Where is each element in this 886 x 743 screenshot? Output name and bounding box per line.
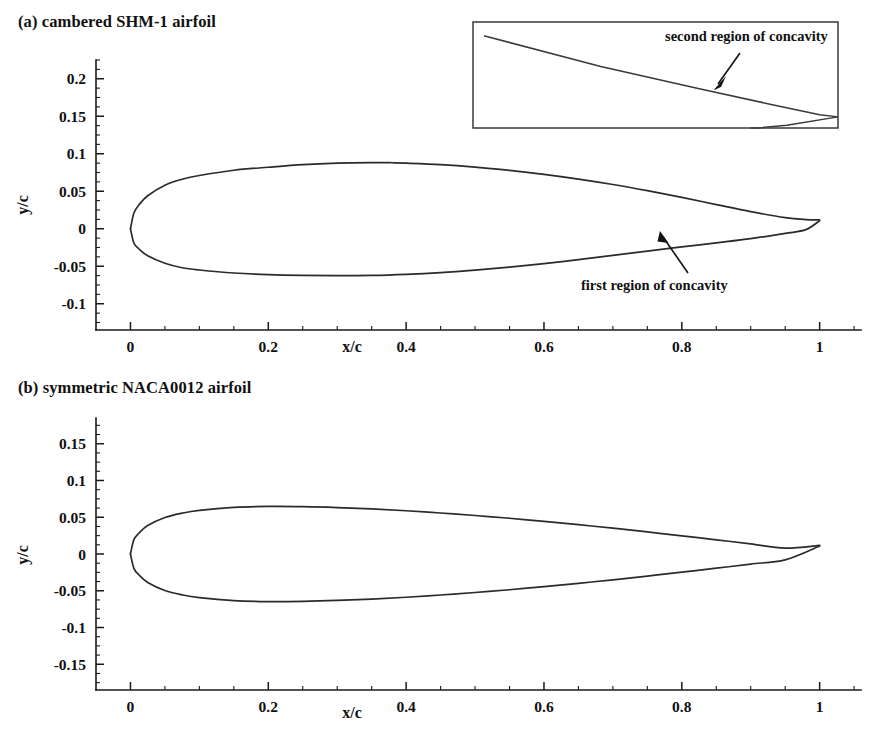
x-tick-label: 0.6 (534, 698, 554, 715)
panel-a-x-tick-labels: 00.20.40.60.81 (127, 338, 824, 355)
x-tick-label: 0.4 (396, 338, 416, 355)
shm1-upper-surface-curve (130, 163, 819, 229)
y-tick-label: -0.1 (61, 619, 86, 636)
naca0012-lower-surface-curve (130, 546, 819, 602)
panel-a-y-axis-label: y/c (14, 195, 32, 215)
y-tick-label: 0 (78, 546, 86, 563)
x-tick-label: 1 (816, 698, 824, 715)
trailing-edge-inset: second region of concavity (473, 22, 838, 128)
airfoil-comparison-figure: (a) cambered SHM-1 airfoil (b) symmetric… (0, 0, 886, 743)
shm1-lower-surface-curve (130, 221, 819, 276)
first-concavity-annotation: first region of concavity (581, 231, 728, 293)
y-tick-label: 0.2 (67, 70, 87, 87)
panel-b-axes (96, 418, 861, 690)
y-tick-label: 0.05 (59, 183, 86, 200)
x-tick-label: 0.6 (534, 338, 554, 355)
x-tick-label: 0.2 (259, 338, 279, 355)
panel-b-y-tick-labels: -0.15-0.1-0.0500.050.10.15 (54, 435, 87, 673)
x-tick-label: 0.8 (672, 338, 692, 355)
x-tick-label: 1 (816, 338, 824, 355)
second-concavity-label: second region of concavity (665, 28, 829, 44)
x-tick-label: 0.2 (259, 698, 279, 715)
y-tick-label: 0.15 (59, 435, 86, 452)
y-tick-label: 0.15 (59, 108, 86, 125)
first-concavity-arrowhead (658, 231, 669, 243)
y-tick-label: 0.1 (67, 472, 86, 489)
x-tick-label: 0 (127, 338, 135, 355)
y-tick-label: -0.15 (54, 656, 87, 673)
y-tick-label: -0.05 (54, 582, 87, 599)
panel-b-y-axis-label: y/c (14, 545, 32, 565)
panel-a-y-tick-labels: -0.1-0.0500.050.10.150.2 (54, 70, 87, 312)
y-tick-label: -0.05 (54, 258, 87, 275)
x-tick-label: 0.4 (396, 698, 416, 715)
panel-b-x-tick-labels: 00.20.40.60.81 (127, 698, 824, 715)
first-concavity-label: first region of concavity (581, 277, 728, 293)
y-tick-label: -0.1 (61, 295, 86, 312)
x-tick-label: 0 (127, 698, 135, 715)
naca0012-upper-surface-curve (130, 506, 819, 554)
panel-b: 00.20.40.60.81 -0.15-0.1-0.0500.050.10.1… (14, 418, 861, 721)
panel-b-x-axis-label: x/c (342, 704, 362, 721)
x-tick-label: 0.8 (672, 698, 692, 715)
y-tick-label: 0 (78, 220, 86, 237)
y-tick-label: 0.05 (59, 509, 86, 526)
panel-a-x-axis-label: x/c (342, 338, 362, 355)
y-tick-label: 0.1 (67, 145, 86, 162)
figure-canvas: 00.20.40.60.81 -0.1-0.0500.050.10.150.2 … (0, 0, 886, 743)
